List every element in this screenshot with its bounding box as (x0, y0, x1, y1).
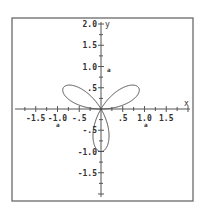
x-axis-label: x (184, 99, 189, 108)
annotation-mark: a (56, 121, 60, 128)
y-tick-label: -.5 (83, 126, 98, 135)
x-tick-label: -1.5 (26, 114, 45, 123)
y-tick-label: -1.5 (78, 169, 97, 178)
y-tick-label: 1.5 (83, 41, 98, 50)
x-tick-label: -.5 (72, 114, 87, 123)
x-tick-label: 1.5 (159, 114, 174, 123)
y-axis-label: y (105, 20, 110, 29)
polar-rose-plot: -1.5-1.0-.5.51.01.52.01.51.0.5-.5-1.0-1.… (0, 0, 202, 213)
y-tick-label: 2.0 (83, 20, 98, 29)
annotation-mark: a (144, 121, 148, 128)
y-tick-label: .5 (87, 84, 97, 93)
y-tick-label: -1.0 (78, 148, 97, 157)
annotation-mark: a (107, 66, 111, 73)
x-tick-label: .5 (118, 114, 128, 123)
y-tick-label: 1.0 (83, 63, 98, 72)
